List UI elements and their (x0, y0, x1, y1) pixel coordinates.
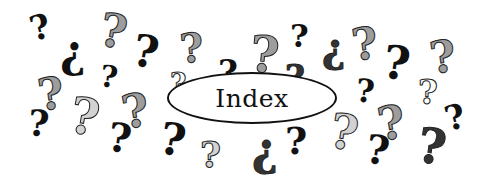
question-mark-icon: ¿ (322, 28, 345, 68)
question-mark-icon: ? (290, 20, 309, 52)
question-mark-icon: ? (355, 74, 376, 108)
index-oval: Index (167, 72, 337, 124)
question-mark-icon: ? (285, 122, 307, 160)
question-mark-icon: ? (380, 38, 413, 87)
question-mark-icon: ¿ (252, 128, 278, 172)
question-mark-icon: ? (200, 136, 221, 172)
question-mark-icon: ? (26, 104, 50, 142)
question-mark-icon: ? (156, 116, 189, 164)
question-mark-icon: ? (178, 27, 205, 69)
question-mark-icon: ? (96, 6, 131, 56)
question-mark-icon: ? (26, 8, 54, 46)
question-mark-icon: ? (129, 28, 162, 76)
question-mark-icon: ? (418, 75, 438, 109)
index-label: Index (215, 84, 288, 113)
question-mark-icon: ? (415, 120, 450, 171)
question-mark-icon: ? (105, 117, 134, 160)
question-mark-icon: ? (98, 61, 120, 93)
question-mark-icon: ? (349, 20, 381, 67)
question-mark-icon: ? (326, 106, 362, 158)
question-mark-icon: ? (66, 90, 104, 144)
index-banner: ?¿????????????????¿?¿??????????? Index (0, 0, 491, 189)
question-mark-icon: ? (363, 129, 392, 172)
question-mark-icon: ¿ (60, 30, 86, 74)
